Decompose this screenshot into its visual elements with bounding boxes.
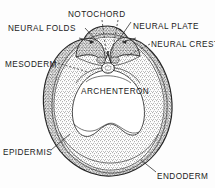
notochord: [102, 63, 115, 73]
neural-crest-left: [97, 57, 105, 63]
label-neural-plate: NEURAL PLATE: [133, 22, 199, 31]
label-notochord: NOTOCHORD: [68, 10, 126, 19]
label-archenteron: ARCHENTERON: [81, 87, 149, 96]
label-mesoderm: MESODERM: [5, 60, 57, 69]
neural-crest-right: [111, 57, 119, 63]
label-neural-crest: NEURAL CREST: [151, 40, 215, 49]
embryo-cross-section-figure: NOTOCHORD NEURAL FOLDS NEURAL PLATE NEUR…: [0, 0, 215, 188]
label-epidermis: EPIDERMIS: [3, 148, 52, 157]
label-neural-folds: NEURAL FOLDS: [8, 24, 76, 33]
diagram-canvas: NOTOCHORD NEURAL FOLDS NEURAL PLATE NEUR…: [0, 0, 215, 188]
label-endoderm: ENDODERM: [157, 172, 208, 181]
